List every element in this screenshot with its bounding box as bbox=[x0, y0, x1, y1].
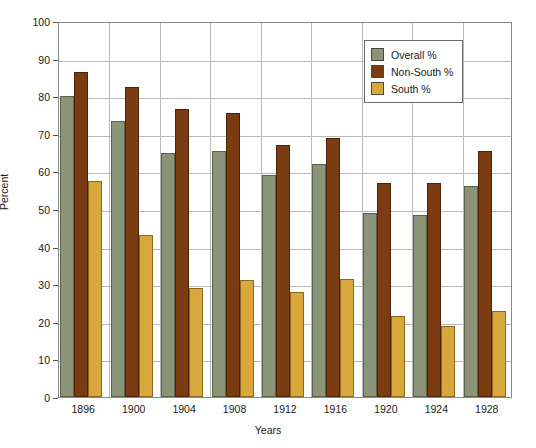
bar bbox=[240, 280, 254, 397]
y-tick-label: 100 bbox=[2, 17, 50, 28]
bar bbox=[363, 213, 377, 397]
bar bbox=[377, 183, 391, 397]
bar bbox=[111, 121, 125, 397]
bar bbox=[74, 72, 88, 397]
bar bbox=[139, 235, 153, 397]
bar bbox=[60, 96, 74, 397]
bar bbox=[212, 151, 226, 397]
legend-label: Overall % bbox=[391, 49, 437, 61]
bar-group bbox=[463, 23, 513, 397]
x-axis-title: Years bbox=[0, 424, 536, 436]
x-tick-label: 1928 bbox=[457, 404, 517, 415]
legend-label: Non-South % bbox=[391, 66, 453, 78]
bar bbox=[391, 316, 405, 397]
y-tick-label: 20 bbox=[2, 318, 50, 329]
bar bbox=[312, 164, 326, 397]
legend-item[interactable]: Overall % bbox=[371, 46, 453, 63]
bar bbox=[189, 288, 203, 397]
bar bbox=[276, 145, 290, 397]
bar bbox=[161, 153, 175, 397]
legend-item[interactable]: Non-South % bbox=[371, 63, 453, 80]
bar-group bbox=[109, 23, 159, 397]
bar bbox=[492, 311, 506, 397]
y-tick-label: 30 bbox=[2, 280, 50, 291]
bar bbox=[326, 138, 340, 397]
bar bbox=[340, 279, 354, 397]
bar bbox=[125, 87, 139, 397]
bar bbox=[413, 215, 427, 397]
y-tick-label: 0 bbox=[2, 393, 50, 404]
bar bbox=[262, 175, 276, 397]
y-tick-label: 10 bbox=[2, 355, 50, 366]
bar bbox=[464, 186, 478, 397]
bar-group bbox=[261, 23, 311, 397]
bar-group bbox=[210, 23, 260, 397]
legend-label: South % bbox=[391, 83, 431, 95]
bar bbox=[427, 183, 441, 397]
bar bbox=[226, 113, 240, 397]
y-tick-label: 90 bbox=[2, 54, 50, 65]
y-tick-label: 60 bbox=[2, 167, 50, 178]
bar bbox=[290, 292, 304, 397]
legend-item[interactable]: South % bbox=[371, 80, 453, 97]
y-tick-label: 40 bbox=[2, 242, 50, 253]
bar-group bbox=[311, 23, 361, 397]
legend-swatch-icon bbox=[371, 48, 384, 61]
bar bbox=[175, 109, 189, 397]
y-tick-mark bbox=[53, 398, 58, 399]
legend: Overall %Non-South %South % bbox=[364, 40, 463, 103]
y-tick-label: 70 bbox=[2, 130, 50, 141]
y-tick-label: 50 bbox=[2, 205, 50, 216]
legend-swatch-icon bbox=[371, 65, 384, 78]
bar bbox=[478, 151, 492, 397]
bar-group bbox=[160, 23, 210, 397]
bar bbox=[88, 181, 102, 397]
y-tick-label: 80 bbox=[2, 92, 50, 103]
bar-chart: Percent 0102030405060708090100 189619001… bbox=[0, 0, 536, 448]
legend-swatch-icon bbox=[371, 82, 384, 95]
bar bbox=[441, 326, 455, 397]
bar-group bbox=[59, 23, 109, 397]
